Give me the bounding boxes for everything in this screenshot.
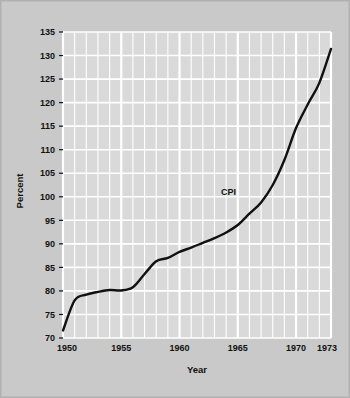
x-tick-label: 1965	[228, 343, 248, 353]
x-axis-title: Year	[187, 364, 207, 375]
y-tick-label: 110	[40, 145, 55, 155]
series-label-cpi: CPI	[221, 187, 236, 197]
y-tick-label: 135	[40, 27, 55, 37]
series-annotations: CPI	[221, 187, 236, 197]
x-tick-label: 1955	[111, 343, 131, 353]
x-tick-label: 1973	[317, 343, 337, 353]
y-tick-label: 100	[40, 192, 55, 202]
y-axis-tick-labels: 707580859095100105110115120125130135	[40, 27, 55, 343]
y-tick-label: 90	[45, 239, 55, 249]
y-tick-label: 95	[45, 216, 55, 226]
cpi-line-chart: 707580859095100105110115120125130135 195…	[1, 1, 350, 398]
y-axis-title: Percent	[14, 173, 25, 209]
y-tick-label: 80	[45, 286, 55, 296]
y-tick-label: 125	[40, 74, 55, 84]
y-tick-label: 120	[40, 98, 55, 108]
chart-figure: 707580859095100105110115120125130135 195…	[0, 0, 350, 398]
x-tick-label: 1950	[57, 343, 77, 353]
x-tick-label: 1970	[286, 343, 306, 353]
x-tick-label: 1960	[170, 343, 190, 353]
y-tick-label: 70	[45, 333, 55, 343]
y-tick-label: 75	[45, 310, 55, 320]
y-tick-label: 85	[45, 263, 55, 273]
y-tick-label: 105	[40, 168, 55, 178]
y-tick-label: 115	[40, 121, 55, 131]
x-axis-tick-labels: 195019551960196519701973	[57, 343, 337, 353]
y-tick-label: 130	[40, 51, 55, 61]
plot-area-background	[63, 32, 331, 338]
